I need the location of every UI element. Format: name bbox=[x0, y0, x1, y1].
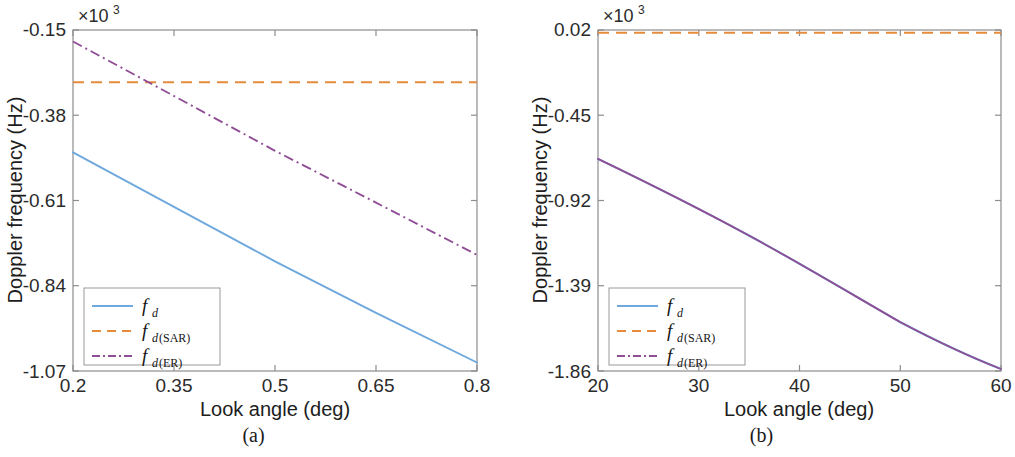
plot-a-ytick-0: -0.15 bbox=[23, 19, 66, 40]
plot-b-legend-label-fd-sub: d bbox=[677, 306, 684, 320]
plot-a-ytick-2: -0.61 bbox=[23, 190, 66, 211]
plot-b-svg: 0.02 -0.45 -0.92 -1.39 -1.86 20 30 40 50… bbox=[508, 0, 1015, 457]
plot-a-ytick-3: -0.84 bbox=[23, 275, 67, 296]
plot-a-xtick-3: 0.65 bbox=[358, 375, 395, 396]
plot-b-ytick-2: -0.92 bbox=[548, 190, 591, 211]
plot-b-ytick-0: 0.02 bbox=[554, 19, 591, 40]
plot-a-exponent-mantissa: ×10 bbox=[78, 6, 109, 26]
plot-b-ytick-3: -1.39 bbox=[548, 275, 591, 296]
plot-b-xtick-3: 50 bbox=[890, 375, 911, 396]
plot-a-legend-label-fd-sub: d bbox=[152, 306, 159, 320]
plot-b-xaxis-title: Look angle (deg) bbox=[724, 398, 874, 420]
plot-b-ytick-4: -1.86 bbox=[548, 361, 591, 382]
plot-a-xtick-4: 0.8 bbox=[464, 375, 490, 396]
plot-a-xaxis-title: Look angle (deg) bbox=[200, 398, 350, 420]
plot-a-legend-box bbox=[84, 288, 220, 365]
plot-b-legend-label-fd-er-sub: d bbox=[677, 356, 684, 370]
plot-a-xtick-1: 0.35 bbox=[156, 375, 193, 396]
plot-a-legend-label-fd-sar-sub: d bbox=[152, 331, 159, 345]
plot-b-xtick-1: 30 bbox=[688, 375, 709, 396]
plot-b-legend-label-fd-er-supp: (ER) bbox=[684, 356, 707, 370]
plot-b-yaxis-title: Doppler frequency (Hz) bbox=[529, 97, 551, 304]
plot-b-legend-label-fd-sar-supp: (SAR) bbox=[684, 331, 715, 345]
plot-a-legend-label-fd-er-sub: d bbox=[152, 356, 159, 370]
plot-a-svg: -0.15 -0.38 -0.61 -0.84 -1.07 0.2 0.35 0… bbox=[0, 0, 507, 457]
plot-b-xtick-0: 20 bbox=[587, 375, 608, 396]
panel-b-caption: (b) bbox=[508, 424, 1015, 447]
plot-b-exponent-mantissa: ×10 bbox=[603, 6, 634, 26]
plot-a-ytick-1: -0.38 bbox=[23, 105, 66, 126]
plot-b-legend-label-fd-sar-sub: d bbox=[677, 331, 684, 345]
figure-container: -0.15 -0.38 -0.61 -0.84 -1.07 0.2 0.35 0… bbox=[0, 0, 1015, 457]
plot-a-yaxis-title: Doppler frequency (Hz) bbox=[4, 97, 26, 304]
plot-b-ytick-1: -0.45 bbox=[548, 105, 591, 126]
plot-b-xtick-2: 40 bbox=[789, 375, 810, 396]
plot-a-exponent-power: 3 bbox=[113, 3, 120, 17]
panel-a: -0.15 -0.38 -0.61 -0.84 -1.07 0.2 0.35 0… bbox=[0, 0, 507, 457]
plot-b-xtick-4: 60 bbox=[990, 375, 1011, 396]
plot-a-xtick-2: 0.5 bbox=[262, 375, 288, 396]
panel-b: 0.02 -0.45 -0.92 -1.39 -1.86 20 30 40 50… bbox=[508, 0, 1015, 457]
plot-b-exponent-power: 3 bbox=[638, 3, 645, 17]
plot-b-legend-box bbox=[609, 288, 745, 365]
plot-a-legend-label-fd-sar-supp: (SAR) bbox=[159, 331, 190, 345]
plot-a-xtick-0: 0.2 bbox=[60, 375, 86, 396]
plot-a-legend-label-fd-er-supp: (ER) bbox=[159, 356, 182, 370]
panel-a-caption: (a) bbox=[0, 424, 507, 447]
